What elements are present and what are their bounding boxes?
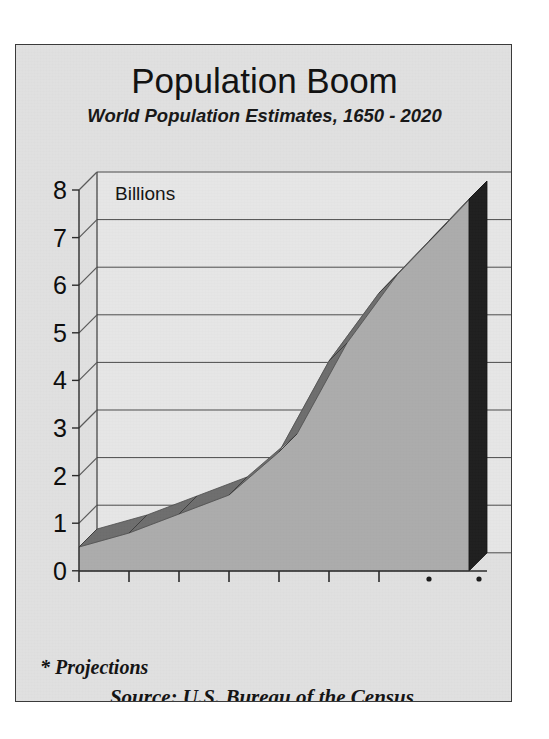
y-tick-label-8: 8: [53, 176, 67, 204]
depth-connector-3: [79, 410, 97, 428]
y-tick-label-6: 6: [53, 271, 67, 299]
projection-markers: [426, 576, 481, 581]
area-end-cap: [469, 181, 487, 571]
y-tick-label-5: 5: [53, 319, 67, 347]
projection-marker-2010-icon: [426, 576, 431, 581]
axis-depth-connectors: [79, 172, 97, 571]
depth-connector-7: [79, 220, 97, 238]
y-tick-label-0: 0: [53, 557, 67, 585]
depth-connector-2: [79, 458, 97, 476]
depth-connector-5: [79, 315, 97, 333]
projection-marker-2020-icon: [476, 576, 481, 581]
depth-connector-1: [79, 505, 97, 523]
depth-connector-6: [79, 267, 97, 285]
footnote-projections: * Projections: [40, 656, 148, 679]
y-tick-label-3: 3: [53, 414, 67, 442]
y-tick-label-2: 2: [53, 462, 67, 490]
y-axis-unit-label: Billions: [115, 183, 175, 204]
depth-connector-8: [79, 172, 97, 190]
chart-card: Population Boom World Population Estimat…: [15, 44, 512, 702]
depth-connector-4: [79, 362, 97, 380]
population-area-chart: 8 7 6 5 4 3 2 1 0 Billions: [16, 45, 512, 645]
source-line-1: Source: U.S. Bureau of the Census,: [16, 685, 512, 702]
y-tick-label-7: 7: [53, 224, 67, 252]
y-tick-label-4: 4: [53, 366, 67, 394]
y-tick-labels: 8 7 6 5 4 3 2 1 0: [53, 176, 67, 585]
y-tick-marks: [72, 190, 79, 571]
y-tick-label-1: 1: [53, 509, 67, 537]
x-tick-marks: [79, 571, 379, 582]
